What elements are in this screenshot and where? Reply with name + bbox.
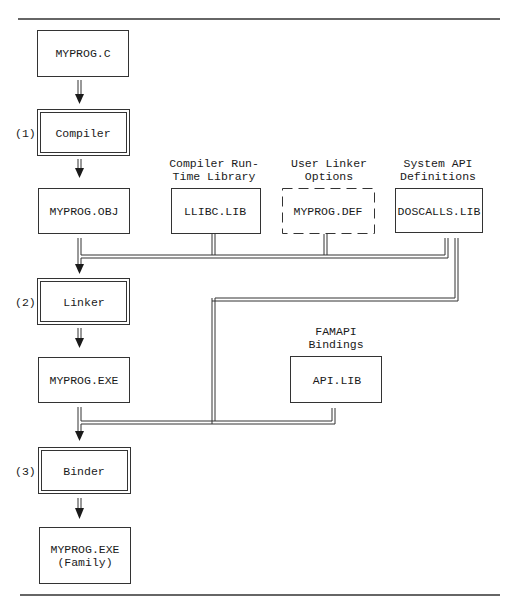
arrow-to-binder — [75, 431, 84, 441]
node-compiler: Compiler — [38, 110, 130, 156]
runtime-lib-caption-2: Time Library — [173, 170, 256, 183]
node-binder-label: Binder — [63, 465, 104, 478]
arrow-compiler-to-object — [75, 159, 84, 178]
step-label-3: (3) — [15, 465, 36, 478]
node-source-label: MYPROG.C — [55, 47, 110, 60]
node-object: MYPROG.OBJ — [39, 189, 130, 234]
system-api-caption-2: Definitions — [400, 170, 476, 183]
node-compiler-label: Compiler — [55, 127, 110, 140]
node-family-exe-label-1: MYPROG.EXE — [50, 543, 119, 556]
famapi-caption-1: FAMAPI — [315, 325, 356, 338]
famapi-caption-2: Bindings — [308, 338, 363, 351]
node-object-label: MYPROG.OBJ — [49, 205, 118, 218]
build-process-diagram: MYPROG.C Compiler (1) MYPROG.OBJ Compile… — [0, 0, 514, 601]
node-linker: Linker — [38, 279, 130, 325]
node-runtime-lib-label: LLIBC.LIB — [184, 205, 246, 218]
system-api-caption-1: System API — [403, 157, 472, 170]
node-executable: MYPROG.EXE — [39, 358, 130, 403]
step-label-2: (2) — [15, 296, 36, 309]
connector-to-binder — [78, 238, 458, 433]
node-system-api: DOSCALLS.LIB — [396, 189, 483, 233]
node-famapi-label: API.LIB — [313, 374, 361, 387]
linker-options-caption-2: Options — [305, 170, 353, 183]
node-runtime-lib: LLIBC.LIB — [172, 189, 261, 234]
node-family-exe-label-2: (Family) — [57, 556, 112, 569]
runtime-lib-caption-1: Compiler Run- — [169, 157, 259, 170]
node-executable-label: MYPROG.EXE — [49, 374, 118, 387]
node-system-api-label: DOSCALLS.LIB — [398, 205, 481, 218]
node-famapi: API.LIB — [291, 357, 382, 403]
arrow-source-to-compiler — [75, 80, 84, 104]
arrow-binder-to-family-exe — [75, 498, 84, 519]
node-family-exe: MYPROG.EXE (Family) — [40, 528, 131, 584]
arrow-linker-to-executable — [75, 328, 84, 348]
node-source: MYPROG.C — [38, 31, 129, 77]
node-linker-options-label: MYPROG.DEF — [293, 205, 362, 218]
node-binder: Binder — [39, 448, 131, 494]
step-label-1: (1) — [15, 127, 36, 140]
linker-options-caption-1: User Linker — [291, 157, 367, 170]
node-linker-label: Linker — [63, 296, 104, 309]
connector-libraries-to-linker — [78, 234, 448, 266]
node-linker-options: MYPROG.DEF — [283, 189, 375, 234]
arrow-to-linker — [75, 264, 84, 274]
